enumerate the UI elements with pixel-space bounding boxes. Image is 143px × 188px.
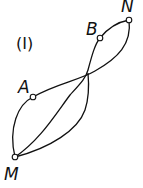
point-N [126,17,132,23]
diagram-canvas: (I) N B A M [0,0,143,188]
point-B [97,35,103,41]
label-N: N [121,0,134,16]
figure-title: (I) [16,34,33,53]
point-M [12,154,18,160]
label-M: M [4,164,19,184]
label-B: B [86,19,98,39]
label-A: A [17,77,30,97]
point-A [30,94,36,100]
